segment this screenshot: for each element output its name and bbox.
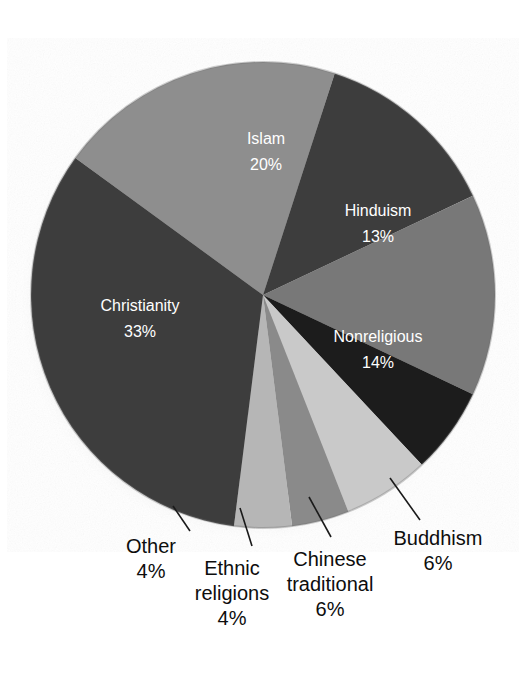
pie-label-islam-line-2: 20%: [250, 156, 282, 173]
pie-label-chinese-traditional: Chinesetraditional6%: [287, 548, 374, 620]
pie-label-chinese-traditional-line-2: traditional: [287, 573, 374, 595]
pie-label-buddhism: Buddhism6%: [394, 527, 483, 574]
pie-label-chinese-traditional-line-1: Chinese: [293, 548, 366, 570]
pie-label-other-line-1: Other: [126, 535, 176, 557]
pie-label-other-line-2: 4%: [137, 560, 166, 582]
pie-label-hinduism-line-1: Hinduism: [345, 202, 412, 219]
pie-label-christianity-line-1: Christianity: [100, 297, 179, 314]
pie-chart-svg: Islam20%Hinduism13%Nonreligious14%Buddhi…: [0, 0, 519, 679]
pie-label-ethnic-religions: Ethnicreligions4%: [195, 557, 269, 629]
pie-label-hinduism-line-2: 13%: [362, 228, 394, 245]
pie-label-christianity-line-2: 33%: [124, 323, 156, 340]
pie-label-ethnic-religions-line-1: Ethnic: [204, 557, 260, 579]
pie-label-other: Other4%: [126, 535, 176, 582]
pie-label-nonreligious-line-1: Nonreligious: [334, 328, 423, 345]
pie-label-buddhism-line-2: 6%: [424, 552, 453, 574]
pie-label-ethnic-religions-line-2: religions: [195, 582, 269, 604]
pie-label-chinese-traditional-line-3: 6%: [316, 598, 345, 620]
pie-label-ethnic-religions-line-3: 4%: [218, 607, 247, 629]
pie-chart-figure: Islam20%Hinduism13%Nonreligious14%Buddhi…: [0, 0, 519, 679]
pie-label-nonreligious-line-2: 14%: [362, 354, 394, 371]
pie-label-buddhism-line-1: Buddhism: [394, 527, 483, 549]
pie-label-islam-line-1: Islam: [247, 130, 285, 147]
